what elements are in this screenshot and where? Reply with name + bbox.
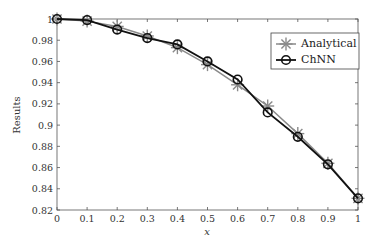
x-tick-label: 0.8 (290, 213, 305, 224)
x-tick-label: 0.7 (260, 213, 275, 224)
legend-label-analytical: Analytical (300, 37, 357, 50)
y-axis-label: Results (11, 96, 22, 133)
y-tick-label: 0.86 (32, 162, 53, 173)
y-tick-label: 0.92 (32, 98, 53, 109)
x-tick-label: 1 (355, 213, 361, 224)
y-tick-label: 0.94 (32, 77, 53, 88)
y-tick-label: 0.9 (38, 120, 53, 131)
x-tick-label: 0.4 (170, 213, 185, 224)
x-tick-label: 0.2 (110, 213, 125, 224)
x-tick-label: 0.1 (80, 213, 95, 224)
x-tick-label: 0.9 (320, 213, 335, 224)
line-chart: 00.10.20.30.40.50.60.70.80.910.820.840.8… (0, 0, 380, 246)
y-tick-label: 0.96 (32, 56, 53, 67)
y-tick-label: 0.84 (32, 183, 53, 194)
x-tick-label: 0.3 (140, 213, 155, 224)
x-axis-label: x (204, 226, 210, 237)
x-tick-label: 0 (54, 213, 60, 224)
y-tick-label: 0.98 (32, 35, 53, 46)
legend: Analytical ChNN (271, 33, 359, 69)
x-tick-label: 0.6 (230, 213, 245, 224)
y-tick-label: 0.88 (32, 141, 53, 152)
legend-label-chnn: ChNN (301, 53, 336, 66)
y-tick-label: 0.82 (32, 205, 53, 216)
x-tick-label: 0.5 (200, 213, 215, 224)
